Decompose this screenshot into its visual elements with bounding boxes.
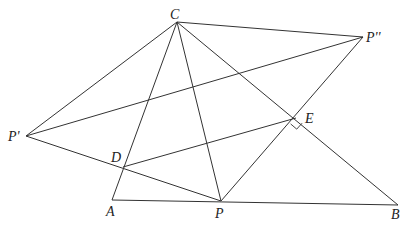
label-C: C bbox=[170, 7, 180, 22]
label-D: D bbox=[110, 150, 121, 165]
label-P-prime: P' bbox=[7, 129, 21, 144]
label-B: B bbox=[391, 207, 400, 222]
point-labels: C P'' P' D E A P B bbox=[7, 7, 400, 222]
label-E: E bbox=[304, 111, 314, 126]
segment-C-P bbox=[177, 22, 221, 201]
segment-C-B bbox=[177, 22, 398, 205]
segment-D-E bbox=[123, 118, 296, 167]
segment-C-P2 bbox=[177, 22, 363, 37]
segment-P-P2 bbox=[221, 37, 363, 201]
segment-P1-P bbox=[26, 136, 221, 201]
segment-C-P1 bbox=[26, 22, 177, 136]
segments-group bbox=[26, 22, 398, 205]
label-A: A bbox=[105, 204, 115, 219]
label-P: P bbox=[214, 206, 224, 221]
label-P-double-prime: P'' bbox=[365, 30, 382, 45]
segment-C-A bbox=[112, 22, 177, 200]
segment-A-B bbox=[112, 200, 398, 205]
geometry-diagram: C P'' P' D E A P B bbox=[0, 0, 414, 225]
